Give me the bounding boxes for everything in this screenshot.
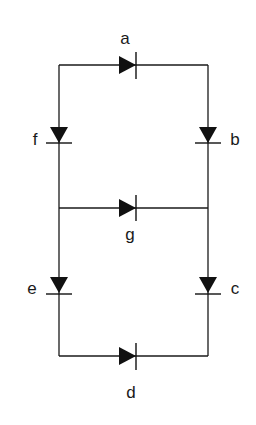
- diode-g: [119, 195, 136, 221]
- diode-f: [46, 127, 72, 143]
- diode-b-triangle-icon: [199, 127, 217, 143]
- diode-c: [195, 277, 221, 294]
- label-g: g: [125, 225, 134, 244]
- label-b: b: [230, 130, 239, 149]
- diode-a: [119, 52, 136, 79]
- diode-d: [119, 343, 136, 370]
- diode-f-triangle-icon: [50, 127, 68, 143]
- label-a: a: [120, 29, 130, 48]
- diode-circuit-diagram: a f b g e c d: [0, 0, 256, 425]
- diode-g-triangle-icon: [119, 199, 136, 217]
- diode-c-triangle-icon: [199, 277, 217, 293]
- diode-e-triangle-icon: [50, 277, 68, 293]
- label-d: d: [126, 383, 135, 402]
- label-c: c: [231, 279, 240, 298]
- diode-b: [195, 127, 221, 143]
- diode-d-triangle-icon: [119, 347, 136, 365]
- label-e: e: [27, 279, 36, 298]
- diode-e: [46, 277, 72, 294]
- wires: [59, 65, 208, 356]
- label-f: f: [33, 130, 38, 149]
- diode-a-triangle-icon: [119, 56, 136, 74]
